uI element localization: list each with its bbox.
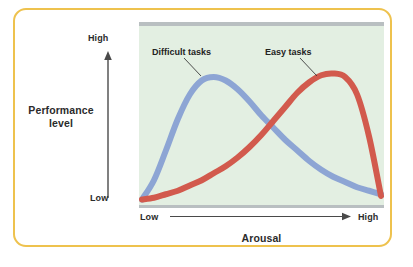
leader-line-easy <box>300 58 317 76</box>
leader-lines <box>0 0 413 267</box>
figure-container: High Low Performance level Low High Arou… <box>0 0 413 267</box>
leader-line-difficult <box>184 58 201 76</box>
